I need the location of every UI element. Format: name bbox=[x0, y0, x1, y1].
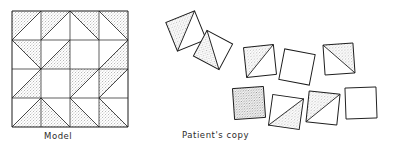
patient-tile bbox=[244, 45, 277, 78]
patient-copy-diagram bbox=[166, 11, 377, 130]
block-design-figure: Model Patient's copy bbox=[0, 0, 396, 156]
patient-tile bbox=[232, 86, 265, 119]
model-caption: Model bbox=[44, 131, 72, 141]
patient-tile bbox=[306, 91, 340, 125]
patient-tile bbox=[279, 49, 315, 85]
patient-tile bbox=[345, 87, 377, 119]
patient-tile bbox=[323, 43, 355, 75]
patient-tile bbox=[268, 94, 303, 129]
model-diagram bbox=[12, 11, 128, 127]
patient-copy-caption: Patient's copy bbox=[182, 130, 249, 140]
